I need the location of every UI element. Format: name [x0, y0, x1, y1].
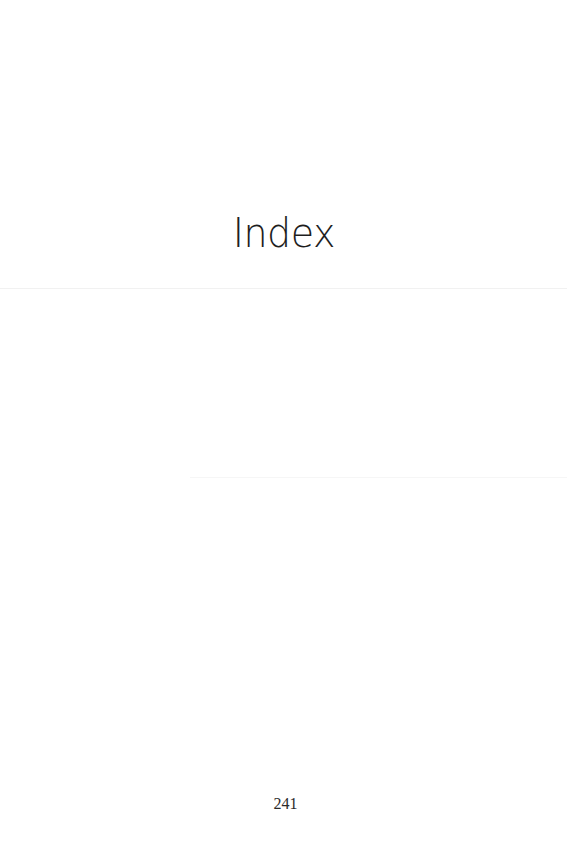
page-number: 241 — [0, 795, 567, 813]
scan-artifact-line — [190, 477, 567, 478]
page-title-text: Index — [232, 209, 334, 257]
page-title: Index — [0, 209, 567, 257]
scan-artifact-line — [0, 288, 567, 289]
book-page: Index 241 — [0, 0, 567, 867]
